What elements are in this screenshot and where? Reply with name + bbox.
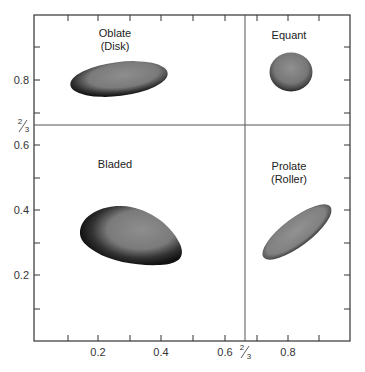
y-tick-label-0.2: 0.2 [14, 269, 29, 281]
x-tick-label-0.4: 0.4 [153, 346, 168, 358]
oblate-disk-shape [68, 56, 169, 102]
y-tick-label-0.8: 0.8 [14, 74, 29, 86]
y-tick-label-0.6: 0.6 [14, 139, 29, 151]
x-tick-label-0.8: 0.8 [280, 346, 295, 358]
y-tick-label-0.4: 0.4 [14, 204, 29, 216]
prolate-roller-shape [255, 196, 339, 269]
equant-shape [270, 53, 313, 92]
svg-text:3: 3 [247, 352, 252, 361]
label-oblate-sub: (Disk) [101, 40, 130, 52]
y-axis-ticks-right [344, 47, 350, 309]
y-tick-label-two-thirds: 2 3 [18, 117, 30, 134]
x-axis-ticks-top [68, 15, 319, 21]
svg-text:3: 3 [25, 125, 30, 134]
shape-classification-diagram: 0.2 0.4 0.6 2 3 0.8 0.8 2 3 0.6 0.4 0.2 … [0, 0, 365, 372]
bladed-shape [80, 206, 182, 265]
label-equant: Equant [272, 29, 307, 41]
label-oblate: Oblate [99, 27, 131, 39]
x-tick-label-0.2: 0.2 [90, 346, 105, 358]
x-axis-ticks-bottom [68, 335, 319, 341]
label-bladed: Bladed [98, 158, 132, 170]
y-axis-ticks-left [34, 47, 40, 309]
label-prolate-sub: (Roller) [271, 173, 307, 185]
x-tick-label-0.6: 0.6 [217, 346, 232, 358]
x-tick-label-two-thirds: 2 3 [240, 343, 252, 361]
label-prolate: Prolate [272, 160, 307, 172]
svg-text:2: 2 [18, 117, 23, 126]
svg-text:2: 2 [240, 343, 245, 352]
